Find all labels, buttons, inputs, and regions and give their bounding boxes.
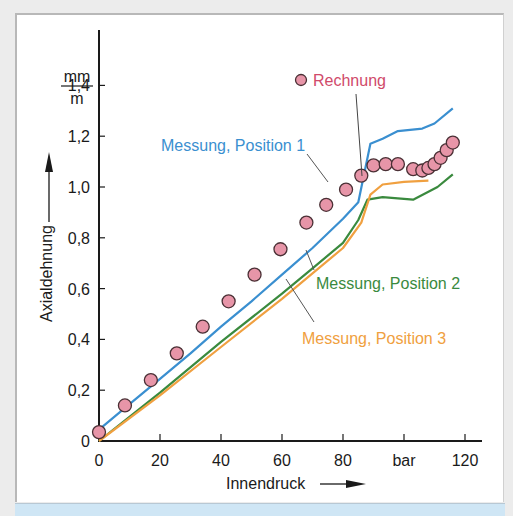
data-point-rechnung (248, 268, 261, 281)
y-unit-denominator: m (70, 90, 83, 107)
data-point-rechnung (391, 158, 404, 171)
label-position-1: Messung, Position 1 (161, 137, 305, 154)
data-point-rechnung (274, 243, 287, 256)
y-unit-numerator: mm (64, 68, 91, 85)
x-tick-label: 80 (334, 452, 352, 469)
rechnung-legend-marker (296, 75, 307, 86)
y-tick-label: 1,2 (68, 128, 90, 145)
data-point-rechnung (170, 347, 183, 360)
x-tick-label: 120 (452, 452, 479, 469)
x-tick-label: 0 (95, 452, 104, 469)
data-point-rechnung (222, 295, 235, 308)
y-tick-label: 0,4 (68, 331, 90, 348)
leader-position-3 (286, 279, 314, 322)
x-arrow-icon (320, 480, 366, 488)
leader-position-2 (306, 250, 314, 270)
y-arrow-icon (45, 152, 53, 222)
data-point-rechnung (118, 399, 131, 412)
data-point-rechnung (196, 320, 209, 333)
data-point-rechnung (93, 426, 106, 439)
data-point-rechnung (300, 216, 313, 229)
label-rechnung: Rechnung (313, 72, 386, 89)
y-tick-label: 0,8 (68, 230, 90, 247)
y-tick-label: 1,0 (68, 179, 90, 196)
data-point-rechnung (367, 159, 380, 172)
x-tick-label: 60 (273, 452, 291, 469)
data-point-rechnung (446, 136, 459, 149)
data-point-rechnung (340, 183, 353, 196)
x-tick-label: 20 (151, 452, 169, 469)
y-tick-label: 0,6 (68, 281, 90, 298)
x-axis-label: Innendruck (226, 475, 306, 492)
data-point-rechnung (144, 374, 157, 387)
data-point-rechnung (379, 158, 392, 171)
x-tick-label: 40 (212, 452, 230, 469)
y-axis-label: Axialdehnung (38, 225, 55, 322)
x-tick-label: bar (392, 452, 416, 469)
leader-position-1 (307, 154, 328, 182)
label-position-3: Messung, Position 3 (302, 330, 446, 347)
x-ticks: 020406080bar120 (95, 434, 479, 469)
y-tick-label: 0 (81, 433, 90, 450)
leader-rechnung (356, 94, 362, 176)
y-axis-label-group: Axialdehnung (38, 225, 55, 322)
label-position-2: Messung, Position 2 (316, 275, 460, 292)
y-tick-label: 0,2 (68, 382, 90, 399)
data-point-rechnung (320, 198, 333, 211)
